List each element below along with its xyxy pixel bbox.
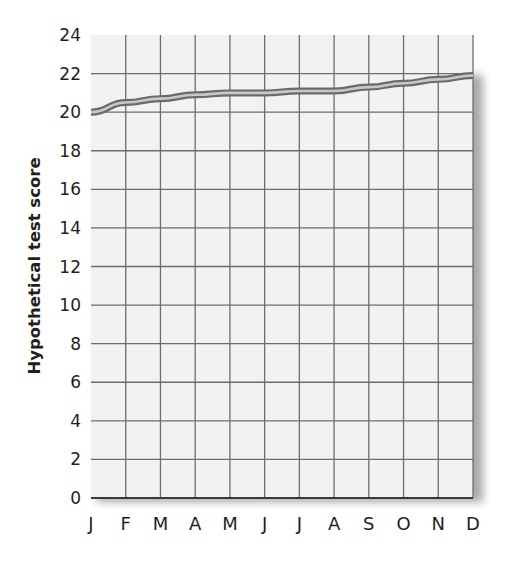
x-tick-label: A: [189, 513, 202, 534]
x-tick-label: M: [153, 513, 169, 534]
x-tick-label: A: [328, 513, 341, 534]
y-tick-label: 4: [70, 411, 81, 431]
y-axis-title: Hypothetical test score: [25, 157, 44, 374]
x-tick-label: S: [363, 513, 374, 534]
y-tick-label: 24: [59, 25, 81, 45]
y-tick-label: 22: [59, 64, 81, 84]
x-tick-label: J: [261, 513, 267, 534]
x-tick-label: D: [466, 513, 480, 534]
y-tick-label: 20: [59, 102, 81, 122]
x-tick-label: J: [296, 513, 302, 534]
x-tick-label: O: [396, 513, 410, 534]
line-chart: 024681012141618202224 JFMAMJJASOND Hypot…: [0, 0, 511, 564]
chart-canvas: 024681012141618202224 JFMAMJJASOND Hypot…: [0, 0, 511, 564]
y-tick-label: 14: [59, 218, 81, 238]
x-axis-tick-labels: JFMAMJJASOND: [87, 513, 480, 534]
y-tick-label: 16: [59, 179, 81, 199]
x-tick-label: J: [87, 513, 93, 534]
x-tick-label: N: [432, 513, 445, 534]
y-tick-label: 2: [70, 449, 81, 469]
y-tick-label: 12: [59, 257, 81, 277]
y-tick-label: 18: [59, 141, 81, 161]
x-tick-label: M: [222, 513, 238, 534]
x-tick-label: F: [121, 513, 131, 534]
y-tick-label: 0: [70, 488, 81, 508]
y-tick-label: 6: [70, 372, 81, 392]
y-tick-label: 8: [70, 334, 81, 354]
y-axis-tick-labels: 024681012141618202224: [59, 25, 81, 508]
y-tick-label: 10: [59, 295, 81, 315]
